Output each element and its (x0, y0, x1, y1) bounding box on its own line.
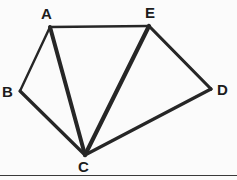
edge-a-e (50, 26, 149, 27)
vertex-label-e: E (145, 5, 155, 20)
vertex-label-c: C (78, 159, 89, 174)
edge-c-d (85, 89, 211, 155)
edge-e-d (149, 26, 211, 89)
vertex-label-b: B (2, 84, 13, 99)
edge-a-b (20, 27, 50, 91)
baseline-rule (0, 175, 237, 176)
vertex-label-a: A (41, 6, 52, 21)
vertex-label-d: D (217, 82, 228, 97)
edge-e-c (85, 26, 149, 155)
figure-canvas (0, 0, 237, 180)
geometry-figure: ABCDE (0, 0, 237, 180)
